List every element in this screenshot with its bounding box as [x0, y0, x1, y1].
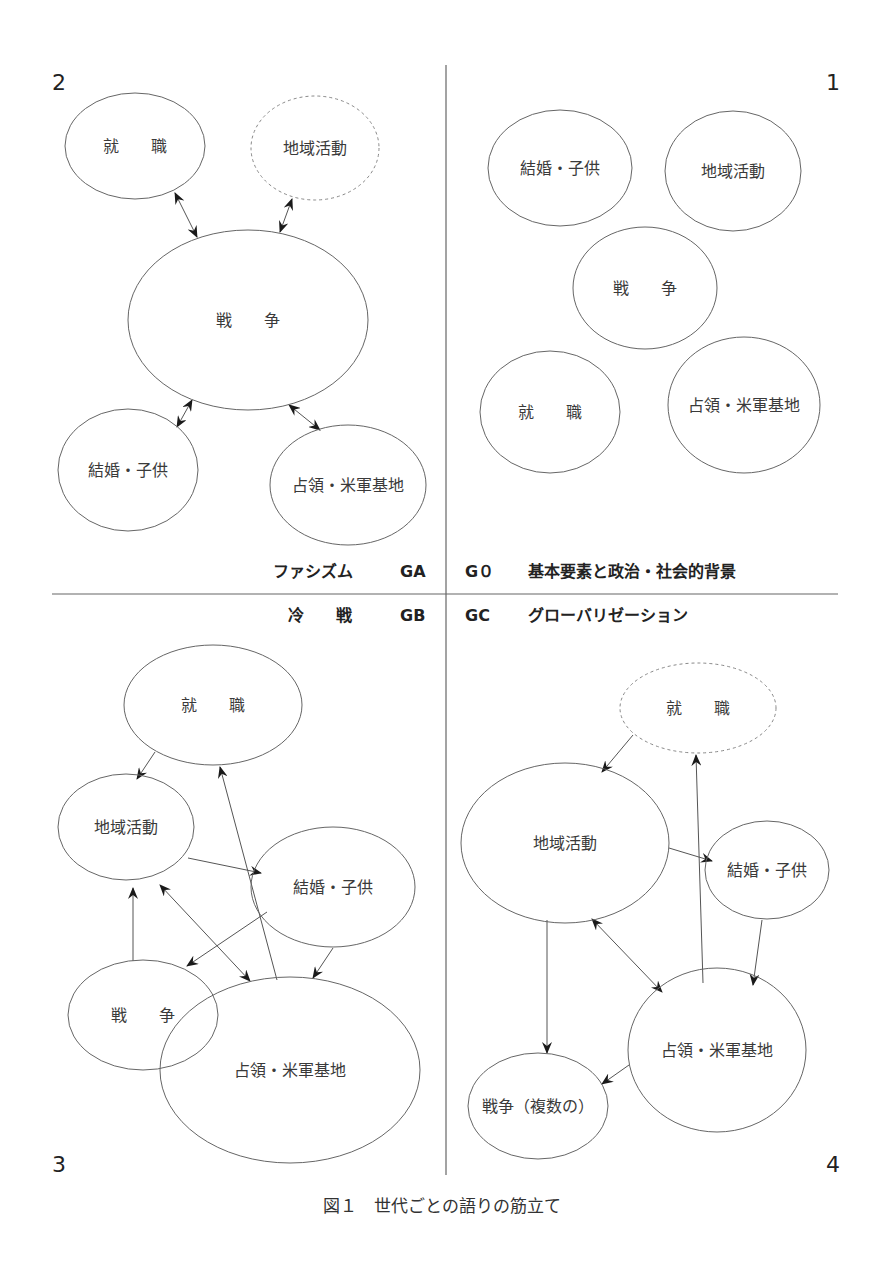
node-label: 就 職 [181, 696, 245, 715]
narrative-diagram: 2 1 3 4 ファシズム GA G０ 基本要素と政治・社会的背景 冷 戦 GB… [0, 0, 885, 1261]
node-label: 就 職 [666, 699, 730, 718]
arrow-edge [313, 948, 333, 978]
node-label: 結婚・子供 [520, 159, 600, 178]
node-label: 就 職 [103, 137, 167, 156]
quadrant-number-4: 4 [826, 1152, 840, 1177]
arrow-edge [669, 848, 712, 861]
quadrant-number-2: 2 [52, 70, 66, 95]
node-label: 戦争（複数の） [482, 1097, 594, 1116]
quadrant-number-3: 3 [52, 1152, 66, 1177]
node-label: 結婚・子供 [293, 878, 373, 897]
quadrant-4-globalization: 就 職地域活動結婚・子供占領・米軍基地戦争（複数の） [461, 663, 829, 1159]
node-label: 地域活動 [94, 818, 158, 837]
era-code-ga: GA [400, 562, 426, 581]
bidirectional-arrow-edge [280, 199, 292, 232]
node-label: 地域活動 [283, 139, 347, 158]
node-label: 占領・米軍基地 [234, 1061, 346, 1080]
node-label: 戦 争 [216, 311, 280, 330]
node-label: 地域活動 [533, 834, 597, 853]
bidirectional-arrow-edge [177, 400, 192, 427]
era-label-cold-war: 冷 戦 [288, 606, 353, 625]
era-label-basic-elements: 基本要素と政治・社会的背景 [527, 562, 736, 581]
node-label: 戦 争 [613, 279, 677, 298]
node-label: 占領・米軍基地 [688, 396, 800, 415]
arrow-edge [696, 755, 703, 983]
era-code-gc: GC [465, 606, 490, 625]
figure-caption: 図１ 世代ごとの語りの筋立て [323, 1196, 561, 1216]
era-code-gb: GB [400, 606, 425, 625]
node-label: 占領・米軍基地 [292, 476, 404, 495]
arrow-edge [188, 858, 261, 873]
arrow-edge [187, 912, 267, 966]
node-label: 占領・米軍基地 [661, 1041, 773, 1060]
bidirectional-arrow-edge [289, 405, 320, 430]
node-label: 就 職 [518, 403, 582, 422]
quadrant-3-cold-war: 就 職地域活動結婚・子供戦 争占領・米軍基地 [58, 645, 420, 1163]
quadrant-1-basic-elements: 結婚・子供地域活動戦 争就 職占領・米軍基地 [480, 110, 820, 473]
arrow-edge [602, 1065, 629, 1084]
bidirectional-arrow-edge [175, 193, 197, 237]
quadrant-2-fascism: 就 職地域活動戦 争結婚・子供占領・米軍基地 [58, 93, 426, 545]
bidirectional-arrow-edge [592, 919, 662, 992]
arrow-edge [602, 735, 633, 772]
node-label: 戦 争 [111, 1006, 175, 1025]
arrow-edge [220, 767, 277, 980]
era-code-g0: G０ [465, 562, 494, 581]
era-label-globalization: グローバリゼーション [528, 606, 688, 625]
era-label-fascism: ファシズム [273, 562, 353, 581]
node-label: 地域活動 [701, 162, 765, 181]
node-label: 結婚・子供 [88, 461, 168, 480]
quadrant-number-1: 1 [826, 70, 840, 95]
node-label: 結婚・子供 [727, 861, 807, 880]
